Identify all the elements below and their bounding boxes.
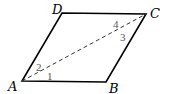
- angle-label-2: 2: [36, 61, 42, 73]
- parallelogram-diagram: D C A B 1 2 3 4: [0, 0, 171, 94]
- vertex-label-c: C: [150, 6, 160, 21]
- vertex-label-b: B: [108, 81, 119, 94]
- angle-label-3: 3: [120, 31, 126, 43]
- vertex-label-a: A: [7, 79, 17, 94]
- angle-label-4: 4: [113, 18, 119, 30]
- angle-label-1: 1: [47, 70, 53, 82]
- vertex-label-d: D: [51, 2, 63, 17]
